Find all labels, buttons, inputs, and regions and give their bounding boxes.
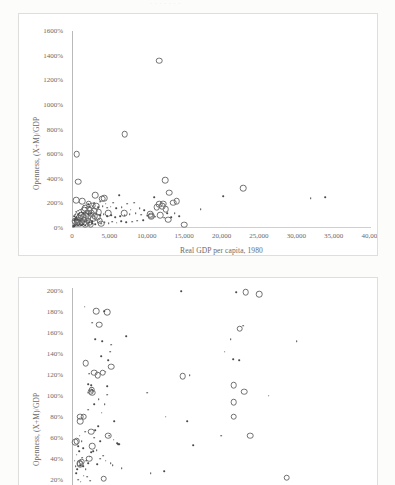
data-point-circle [247,432,254,439]
scan-artifact-text: · · · · · · · [150,1,380,11]
data-point-dot [91,223,93,225]
y-axis-tick-label: 100% [47,392,67,400]
data-point-dot [81,211,83,213]
data-point-circle [181,221,188,228]
data-point-dot [77,210,79,212]
data-point-dot [268,395,270,397]
data-point-dot [104,403,106,405]
data-point-dot [106,386,108,388]
data-point-dot [296,341,298,343]
data-point-dot [89,224,91,226]
data-point-dot [85,207,87,209]
data-point-dot [80,224,82,226]
data-point-dot [139,208,141,210]
data-point-circle [242,289,249,296]
data-point-dot [99,440,101,442]
data-point-dot [92,451,94,453]
data-point-circle [92,192,99,199]
data-point-dot [111,344,113,346]
data-point-dot [83,213,85,215]
data-point-dot [75,465,77,467]
y-axis-tick-label: 1400% [43,52,67,60]
data-point-dot [87,223,89,225]
data-point-circle [75,179,82,186]
data-point-dot [85,224,87,226]
y-axis-tick-label: 1000% [43,101,67,109]
data-point-dot [117,443,119,445]
data-point-dot [232,358,234,360]
data-point-circle [180,373,187,380]
data-point-circle [101,195,108,202]
y-axis-ticks-bottom: 20%40%60%80%100%120%140%160%180%200% [19,278,67,485]
data-point-dot [105,371,107,373]
data-point-dot [79,224,81,226]
data-point-dot [126,203,128,205]
data-point-dot [79,212,81,214]
data-point-dot [95,339,97,341]
data-point-dot [110,214,112,216]
x-axis-tick-label: 30,000 [287,232,306,240]
data-point-dot [93,214,95,216]
data-point-dot [84,431,86,433]
data-point-dot [310,197,312,199]
data-point-circle [230,382,237,389]
data-point-dot [103,214,105,216]
y-axis-label-top: Openness, (X+M)/GDP [32,117,41,190]
chart-openness-vs-gdp-zoomed: 20%40%60%80%100%120%140%160%180%200% [18,277,378,485]
y-axis-tick-label: 80% [50,413,67,421]
data-point-dot [243,325,245,327]
y-axis-tick-label: 180% [47,308,67,316]
data-point-dot [200,208,202,210]
data-point-circle [93,308,100,315]
data-point-dot [238,359,240,361]
data-point-dot [82,223,84,225]
data-point-dot [154,216,156,218]
data-point-dot [97,425,99,427]
data-point-circle [156,57,163,64]
y-axis-tick-label: 20% [50,476,67,484]
data-point-circle [82,360,89,367]
data-point-dot [130,209,132,211]
data-point-dot [140,214,142,216]
data-point-circle [72,439,79,446]
data-point-dot [74,460,76,462]
data-point-dot [324,196,326,198]
x-axis-tick-label: 15,000 [175,232,194,240]
y-axis-tick-label: 200% [47,199,67,207]
data-point-circle [74,151,81,158]
data-point-dot [104,222,106,224]
data-point-dot [163,217,165,219]
data-point-dot [121,207,123,209]
data-point-dot [87,392,89,394]
data-point-dot [90,212,92,214]
data-point-circle [100,475,107,482]
data-point-dot [91,322,93,324]
data-point-dot [76,454,78,456]
data-point-dot [144,209,146,211]
y-axis-tick-label: 40% [50,455,67,463]
data-point-dot [88,373,90,375]
data-point-dot [107,359,109,361]
data-point-dot [85,460,87,462]
data-point-dot [100,355,102,357]
data-point-dot [99,201,101,203]
data-point-dot [108,223,110,225]
data-point-dot [111,221,113,223]
data-point-dot [80,464,82,466]
data-point-dot [77,468,79,470]
data-point-dot [101,341,103,343]
data-point-dot [136,220,138,222]
data-point-dot [178,216,180,218]
x-axis-tick-label: 25,000 [249,232,268,240]
data-point-dot [220,435,222,437]
data-point-dot [85,212,87,214]
data-point-circle [230,414,237,421]
data-point-dot [87,384,89,386]
data-point-dot [124,214,126,216]
data-point-dot [101,412,103,414]
data-point-dot [110,206,112,208]
y-axis-tick-label: 120% [47,371,67,379]
data-point-dot [77,445,79,447]
data-point-dot [87,409,89,411]
data-point-dot [89,456,91,458]
